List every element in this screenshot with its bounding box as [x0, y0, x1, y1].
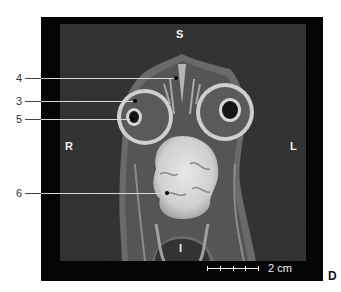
panel-letter: D	[328, 270, 337, 282]
scale-bar	[207, 268, 259, 269]
callout-number-6: 6	[16, 188, 22, 199]
mri-scan-graphic	[60, 24, 306, 261]
callout-number-4: 4	[16, 73, 22, 84]
superior-label: S	[176, 29, 183, 40]
callout-dot-4	[174, 76, 178, 80]
scale-tick	[207, 266, 208, 271]
callout-dot-3	[133, 99, 137, 103]
callout-number-3: 3	[16, 96, 22, 107]
scale-tick	[233, 266, 234, 271]
leader-line-5-inner	[41, 119, 132, 120]
leader-line-3	[25, 101, 41, 102]
callout-dot-5	[130, 117, 134, 121]
leader-line-6	[25, 193, 41, 194]
mri-image	[60, 24, 306, 261]
leader-line-5	[25, 119, 41, 120]
scale-tick	[258, 266, 259, 271]
callout-number-5: 5	[16, 114, 22, 125]
right-label: R	[65, 141, 73, 152]
scale-tick	[245, 266, 246, 271]
leader-line-6-inner	[41, 193, 167, 194]
leader-line-3-inner	[41, 101, 135, 102]
callout-dot-6	[165, 191, 169, 195]
leader-line-4	[25, 78, 41, 79]
scale-tick	[220, 266, 221, 271]
leader-line-4-inner	[41, 78, 176, 79]
inferior-label: I	[179, 243, 182, 254]
scale-bar-label: 2 cm	[268, 263, 292, 274]
left-label: L	[290, 141, 297, 152]
